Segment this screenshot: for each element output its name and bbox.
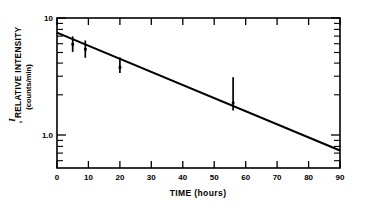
x-ticklabel-70: 70 xyxy=(273,173,282,182)
y-axis-ticks-right xyxy=(331,18,340,161)
x-ticklabel-0: 0 xyxy=(55,173,60,182)
fit-line xyxy=(57,33,340,151)
plot-frame xyxy=(57,18,340,168)
x-axis-title: TIME (hours) xyxy=(170,188,227,198)
y-ticklabel-10: 10 xyxy=(44,14,53,23)
x-ticklabel-30: 30 xyxy=(147,173,156,182)
x-ticklabel-60: 60 xyxy=(241,173,250,182)
x-ticklabel-90: 90 xyxy=(336,173,345,182)
x-axis-ticks-top xyxy=(57,18,340,25)
y-axis-title: I , RELATIVE INTENSITY (counts/min) xyxy=(7,27,33,124)
x-ticklabel-40: 40 xyxy=(178,173,187,182)
x-axis-ticks-bottom xyxy=(57,161,340,168)
x-ticklabel-10: 10 xyxy=(84,173,93,182)
x-ticklabel-80: 80 xyxy=(304,173,313,182)
y-ticklabel-1: 1.0 xyxy=(42,131,54,140)
figure-container: I , RELATIVE INTENSITY (counts/min) xyxy=(0,0,381,208)
y-axis-title-main: , RELATIVE INTENSITY xyxy=(13,27,23,124)
y-axis-ticks-left xyxy=(57,18,66,161)
y-axis-title-sub: (counts/min) xyxy=(24,64,33,110)
semilog-decay-chart: I , RELATIVE INTENSITY (counts/min) xyxy=(0,0,381,208)
x-ticklabel-50: 50 xyxy=(210,173,219,182)
x-ticklabel-20: 20 xyxy=(115,173,124,182)
